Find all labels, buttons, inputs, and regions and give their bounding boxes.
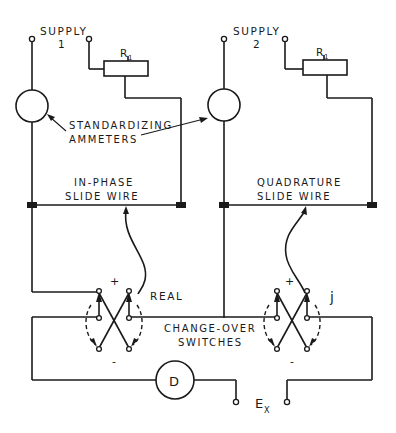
detector-label: D [169, 374, 181, 389]
ex-subscript: X [264, 406, 271, 415]
in-phase-wiper-lead [126, 211, 146, 294]
quadrature-label-2: SLIDE WIRE [257, 191, 331, 202]
ammeters-label-2: AMMETERS [69, 134, 138, 145]
changeover-switch-j [264, 289, 320, 352]
circuit-diagram: SUPPLY 1 R 1 IN-PHASE SLIDE WIRE [0, 0, 396, 433]
real-label: REAL [150, 290, 183, 302]
ex-terminal-right [284, 399, 289, 404]
supply-2-terminals [221, 36, 303, 89]
ammeter-right-icon [208, 89, 240, 121]
supply-2-number: 2 [253, 38, 261, 50]
in-phase-label-1: IN-PHASE [74, 177, 134, 188]
supply-1-terminals [29, 36, 104, 90]
left-circuit: SUPPLY 1 R 1 IN-PHASE SLIDE WIRE [16, 25, 186, 294]
switch-real-plus: + [110, 275, 121, 288]
changeover-label-2: SWITCHES [178, 337, 243, 348]
ammeter-left-icon [16, 90, 48, 122]
ex-terminal-left [233, 399, 238, 404]
supply-2-terminal-b [282, 36, 287, 41]
supply-2-terminal-a [221, 36, 226, 41]
switch-j-plus: + [285, 275, 296, 288]
wiper-arrow-icon-2 [301, 206, 307, 215]
supply-1-terminal-b [86, 36, 91, 41]
ammeters-label-1: STANDARDIZING [69, 120, 173, 131]
r1-right-subscript: 1 [324, 53, 330, 61]
changeover-switch-real [86, 289, 142, 352]
supply-1-label: SUPPLY [40, 25, 87, 37]
switch-real-minus: - [112, 355, 118, 368]
supply-1-number: 1 [58, 38, 66, 50]
supply-2-label: SUPPLY [233, 25, 280, 37]
in-phase-slide-wire [27, 202, 186, 208]
supply-1-terminal-a [29, 36, 34, 41]
switch-j-minus: - [290, 355, 296, 368]
j-label: j [329, 289, 336, 305]
quadrature-slide-wire [219, 202, 377, 208]
in-phase-label-2: SLIDE WIRE [65, 191, 139, 202]
changeover-label-1: CHANGE-OVER [164, 323, 256, 334]
quadrature-label-1: QUADRATURE [257, 177, 342, 188]
wiper-arrow-icon [123, 206, 129, 214]
r1-left-subscript: 1 [128, 54, 134, 62]
